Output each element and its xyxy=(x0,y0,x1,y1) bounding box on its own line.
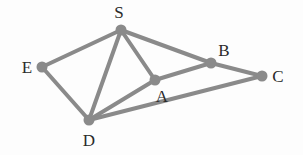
graph-diagram: S E A B C D xyxy=(0,0,303,155)
edge-d-c xyxy=(89,76,262,120)
edge-e-d xyxy=(42,67,89,120)
node-s xyxy=(116,25,127,36)
node-a xyxy=(150,75,161,86)
node-b xyxy=(206,58,217,69)
node-label-e: E xyxy=(22,58,32,77)
edge-b-c xyxy=(211,63,262,76)
node-label-c: C xyxy=(272,67,283,86)
node-label-b: B xyxy=(218,41,229,60)
edge-a-b xyxy=(155,63,211,80)
node-label-s: S xyxy=(114,3,123,22)
node-e xyxy=(37,62,48,73)
edge-d-a xyxy=(89,80,155,120)
node-d xyxy=(84,115,95,126)
node-c xyxy=(257,71,268,82)
node-label-a: A xyxy=(156,87,169,106)
node-label-d: D xyxy=(83,131,95,150)
